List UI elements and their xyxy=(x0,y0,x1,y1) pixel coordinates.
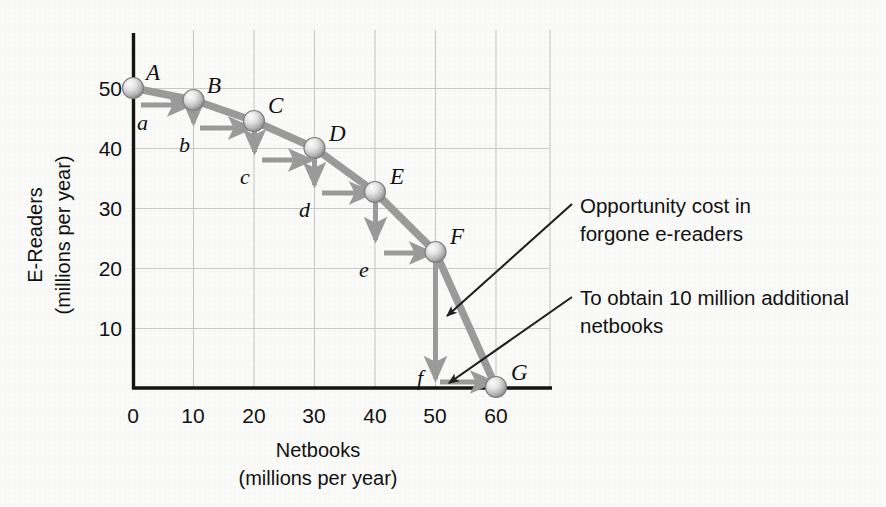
y-tick-10: 10 xyxy=(99,317,122,340)
callout-opportunity-cost: Opportunity cost in forgone e-readers xyxy=(580,194,751,245)
point-label-C: C xyxy=(268,93,284,118)
callout-additional-netbooks-line1: To obtain 10 million additional xyxy=(580,286,849,309)
data-point-C xyxy=(244,111,265,132)
callout-opportunity-cost-line1: Opportunity cost in xyxy=(580,194,751,217)
callout-leader-lines xyxy=(447,204,572,383)
data-point-D xyxy=(304,138,325,159)
y-tick-30: 30 xyxy=(99,197,122,220)
y-tick-40: 40 xyxy=(99,137,122,160)
point-label-E: E xyxy=(389,164,404,189)
point-label-F: F xyxy=(449,224,465,249)
y-axis-title: E-Readers (millions per year) xyxy=(24,156,74,315)
segment-label-a: a xyxy=(137,110,148,135)
ppf-chart: 50 40 30 20 10 0 10 20 30 40 50 60 Netbo… xyxy=(0,0,886,507)
point-label-D: D xyxy=(328,121,346,146)
x-axis-title-main: Netbooks xyxy=(276,439,361,461)
y-tick-labels: 50 40 30 20 10 xyxy=(99,77,122,340)
callout-additional-netbooks-line2: netbooks xyxy=(580,314,663,337)
x-tick-20: 20 xyxy=(242,404,265,427)
point-label-A: A xyxy=(144,60,161,85)
segment-label-c: c xyxy=(240,164,250,189)
point-label-G: G xyxy=(511,360,528,385)
segment-labels: a b c d e f xyxy=(137,110,426,390)
x-tick-10: 10 xyxy=(181,404,204,427)
x-tick-60: 60 xyxy=(484,404,507,427)
segment-label-e: e xyxy=(359,257,369,282)
y-axis-title-sub: (millions per year) xyxy=(52,156,74,315)
data-point-B xyxy=(183,90,204,111)
point-label-B: B xyxy=(207,73,221,98)
segment-label-f: f xyxy=(417,365,426,390)
x-tick-40: 40 xyxy=(363,404,386,427)
callout-opportunity-cost-line2: forgone e-readers xyxy=(580,222,743,245)
chart-page: 50 40 30 20 10 0 10 20 30 40 50 60 Netbo… xyxy=(0,0,886,507)
segment-label-d: d xyxy=(299,197,311,222)
x-axis-title-sub: (millions per year) xyxy=(239,467,398,489)
x-tick-0: 0 xyxy=(127,404,139,427)
x-tick-labels: 0 10 20 30 40 50 60 xyxy=(127,404,508,427)
x-tick-30: 30 xyxy=(302,404,325,427)
x-tick-50: 50 xyxy=(423,404,446,427)
data-point-E xyxy=(365,182,386,203)
data-point-F xyxy=(425,242,446,263)
y-axis-title-main: E-Readers xyxy=(24,187,46,283)
axes xyxy=(132,33,552,389)
y-tick-50: 50 xyxy=(99,77,122,100)
grid-lines xyxy=(133,30,550,388)
data-point-G xyxy=(486,377,507,398)
x-axis-title: Netbooks (millions per year) xyxy=(239,439,398,489)
leader-line-opportunity-cost xyxy=(447,204,572,316)
data-point-A xyxy=(123,78,144,99)
y-tick-20: 20 xyxy=(99,257,122,280)
segment-label-b: b xyxy=(179,132,190,157)
callout-additional-netbooks: To obtain 10 million additional netbooks xyxy=(580,286,849,337)
